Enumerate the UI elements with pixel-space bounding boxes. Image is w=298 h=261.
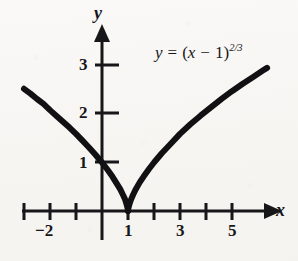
graph-figure: −2 1 3 5 1 2 3 x y y=(x−1)2/3 — [0, 0, 298, 261]
curve-right-branch — [128, 68, 267, 211]
function-curve — [24, 68, 267, 211]
y-tick-label-3: 3 — [79, 56, 88, 73]
x-tick-label-3: 3 — [176, 222, 185, 239]
x-tick-label-1: 1 — [124, 222, 133, 239]
x-axis-group — [22, 203, 282, 220]
equation-annotation: y=(x−1)2/3 — [155, 44, 243, 61]
equation-lhs: y — [155, 43, 163, 62]
x-tick-label-5: 5 — [228, 222, 237, 239]
x-tick-label--2: −2 — [35, 222, 53, 239]
y-axis-label: y — [94, 4, 102, 22]
x-axis-label: x — [276, 201, 285, 219]
equation-base-var: x — [188, 43, 196, 62]
equation-equals: = — [168, 43, 178, 62]
y-axis-group — [94, 24, 119, 240]
y-axis-arrow-up-icon — [94, 24, 110, 42]
equation-exponent: 2/3 — [229, 42, 242, 53]
curve-left-branch — [24, 89, 128, 211]
y-tick-marks — [95, 65, 119, 162]
y-tick-label-2: 2 — [79, 104, 88, 121]
equation-minus: − — [200, 43, 210, 62]
y-tick-label-1: 1 — [79, 154, 88, 171]
